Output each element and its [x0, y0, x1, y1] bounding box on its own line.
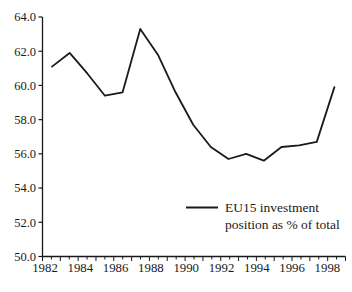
legend-label-line2: position as % of total [225, 217, 340, 232]
x-tick-label: 1992 [209, 261, 235, 275]
x-tick-label: 1984 [68, 261, 94, 275]
y-tick-label: 52.0 [14, 216, 36, 230]
y-axis: 64.062.060.058.056.054.052.050.0 [14, 10, 42, 263]
data-line-eu15 [52, 29, 334, 161]
eu15-investment-line-chart: 64.062.060.058.056.054.052.050.019821984… [0, 0, 352, 292]
x-tick-label: 1988 [138, 261, 164, 275]
x-tick-label: 1982 [32, 261, 58, 275]
legend-label-line1: EU15 investment [225, 200, 319, 215]
x-tick-label: 1990 [173, 261, 199, 275]
y-tick-label: 62.0 [14, 45, 36, 59]
y-tick-label: 60.0 [14, 79, 36, 93]
y-tick-label: 58.0 [14, 113, 36, 127]
x-tick-label: 1998 [315, 261, 341, 275]
y-tick-label: 64.0 [14, 10, 36, 24]
legend: EU15 investmentposition as % of total [186, 200, 340, 232]
x-tick-label: 1996 [279, 261, 305, 275]
chart-figure: 64.062.060.058.056.054.052.050.019821984… [0, 0, 352, 292]
x-tick-label: 1986 [103, 261, 129, 275]
x-axis: 198219841986198819901992199419961998 [32, 257, 345, 276]
x-tick-label: 1994 [244, 261, 270, 275]
y-tick-label: 54.0 [14, 181, 36, 195]
y-tick-label: 56.0 [14, 147, 36, 161]
